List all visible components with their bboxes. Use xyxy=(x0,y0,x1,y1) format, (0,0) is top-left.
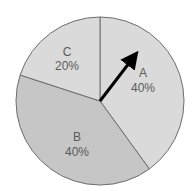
slice-a-name: A xyxy=(139,66,147,80)
slice-a-pct: 40% xyxy=(131,81,155,95)
pie-chart: A 40% B 40% C 20% xyxy=(0,0,193,191)
slice-b-name: B xyxy=(73,130,81,144)
slice-c-pct: 20% xyxy=(55,59,79,73)
slice-c-name: C xyxy=(63,45,72,59)
slice-b-pct: 40% xyxy=(65,145,89,159)
